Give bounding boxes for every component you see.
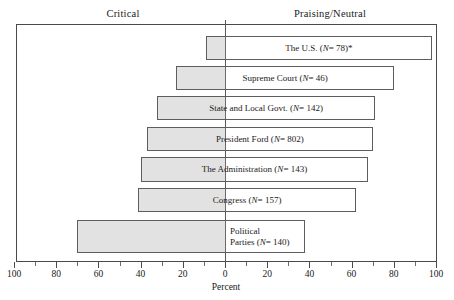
axis-tick-label: 80 bbox=[51, 269, 61, 279]
x-axis: 10080604020020406080100 bbox=[16, 262, 437, 263]
axis-tick-major bbox=[267, 262, 268, 268]
axis-tick-major bbox=[183, 262, 184, 268]
axis-tick-minor bbox=[120, 262, 121, 266]
axis-tick-major bbox=[394, 262, 395, 268]
bar-critical-segment bbox=[78, 221, 226, 252]
axis-tick-label: 40 bbox=[136, 269, 146, 279]
bar-label: President Ford (N= 802) bbox=[148, 134, 372, 145]
bar-label: Congress (N= 157) bbox=[139, 195, 354, 206]
axis-tick-major bbox=[14, 262, 15, 268]
bar-label: The Administration (N= 143) bbox=[142, 164, 368, 175]
axis-tick-major bbox=[225, 262, 226, 268]
axis-tick-major bbox=[309, 262, 310, 268]
axis-tick-minor bbox=[162, 262, 163, 266]
axis-tick-major bbox=[141, 262, 142, 268]
axis-tick-minor bbox=[373, 262, 374, 266]
axis-tick-label: 20 bbox=[262, 269, 272, 279]
bar-row: Congress (N= 157) bbox=[138, 188, 355, 212]
axis-tick-label: 60 bbox=[347, 269, 357, 279]
bar-label: Supreme Court (N= 46) bbox=[177, 73, 392, 84]
axis-tick-major bbox=[98, 262, 99, 268]
axis-tick-minor bbox=[331, 262, 332, 266]
axis-tick-minor bbox=[246, 262, 247, 266]
bar-row: President Ford (N= 802) bbox=[147, 127, 373, 151]
axis-tick-minor bbox=[77, 262, 78, 266]
bar-label: The U.S. (N= 78)* bbox=[207, 43, 431, 54]
bar-label: State and Local Govt. (N= 142) bbox=[158, 103, 373, 114]
axis-tick-label: 100 bbox=[7, 269, 21, 279]
axis-tick-label: 0 bbox=[223, 269, 228, 279]
axis-tick-label: 80 bbox=[389, 269, 399, 279]
bar-row: Political Parties (N= 140) bbox=[77, 220, 305, 253]
chart-figure: Critical Praising/Neutral The U.S. (N= 7… bbox=[0, 0, 454, 300]
axis-tick-label: 60 bbox=[94, 269, 104, 279]
bar-row: Supreme Court (N= 46) bbox=[176, 66, 393, 90]
axis-tick-label: 20 bbox=[178, 269, 188, 279]
axis-tick-minor bbox=[35, 262, 36, 266]
axis-tick-minor bbox=[415, 262, 416, 266]
axis-heading-critical: Critical bbox=[106, 8, 139, 19]
axis-tick-label: 40 bbox=[305, 269, 315, 279]
axis-tick-minor bbox=[204, 262, 205, 266]
bar-row: The Administration (N= 143) bbox=[141, 157, 369, 182]
x-axis-title: Percent bbox=[212, 282, 241, 292]
bar-row: State and Local Govt. (N= 142) bbox=[157, 96, 374, 120]
axis-tick-major bbox=[352, 262, 353, 268]
axis-tick-label: 100 bbox=[429, 269, 443, 279]
bar-label: Political Parties (N= 140) bbox=[230, 226, 292, 247]
axis-tick-major bbox=[436, 262, 437, 268]
bar-row: The U.S. (N= 78)* bbox=[206, 36, 432, 60]
axis-tick-minor bbox=[288, 262, 289, 266]
axis-heading-praising: Praising/Neutral bbox=[294, 8, 366, 19]
axis-tick-major bbox=[56, 262, 57, 268]
